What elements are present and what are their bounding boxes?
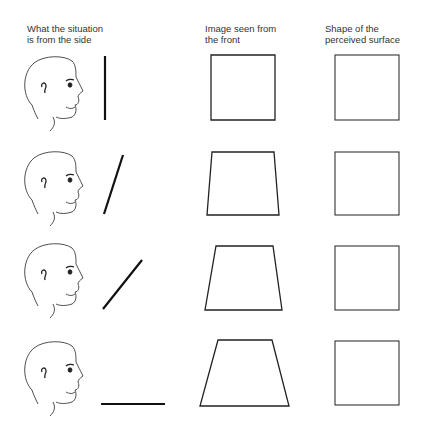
head-profile-icon	[25, 57, 83, 131]
row-1	[25, 55, 399, 131]
perception-diagram	[0, 0, 426, 423]
perceived-square	[335, 246, 399, 310]
retinal-image-shape	[205, 246, 282, 310]
retinal-image-shape	[200, 340, 289, 406]
perceived-square	[335, 152, 399, 215]
retinal-image-shape	[207, 152, 279, 215]
row-2	[25, 152, 399, 226]
surface-side-line	[104, 155, 123, 214]
retinal-image-shape	[211, 55, 275, 120]
perceived-square	[335, 55, 399, 120]
surface-side-line	[103, 260, 142, 309]
head-profile-icon	[25, 244, 83, 318]
head-profile-icon	[25, 152, 83, 226]
head-profile-icon	[25, 342, 83, 416]
row-4	[25, 340, 399, 416]
perceived-square	[335, 341, 399, 405]
row-3	[25, 244, 399, 318]
